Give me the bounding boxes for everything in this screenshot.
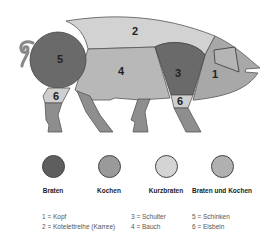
swatch-braten-und-kochen	[211, 155, 234, 178]
swatch-kurzbraten	[155, 155, 178, 178]
legend-item-braten-und-kochen: Braten und Kochen	[182, 155, 262, 194]
key-entry: 6 = Eisbein	[192, 222, 230, 232]
key-entry: 1 = Kopf	[42, 212, 115, 222]
swatch-braten	[42, 155, 65, 178]
label-4: 4	[118, 65, 125, 77]
key-column-2: 3 = Schulter 4 = Bauch	[131, 212, 166, 232]
label-3: 3	[175, 67, 181, 79]
key-entry: 4 = Bauch	[131, 222, 166, 232]
pig-cuts-diagram: 2 5 4 3 1 6 6	[0, 0, 277, 150]
label-5: 5	[57, 53, 63, 65]
key-column-3: 5 = Schinken 6 = Eisbein	[192, 212, 230, 232]
swatch-kochen	[98, 155, 121, 178]
label-6-front: 6	[177, 95, 183, 107]
key-entry: 3 = Schulter	[131, 212, 166, 222]
key-entry: 5 = Schinken	[192, 212, 230, 222]
label-6-hind: 6	[53, 90, 59, 102]
hind-leg-lower	[45, 103, 62, 132]
key-column-1: 1 = Kopf 2 = Kotelettreihe (Karree)	[42, 212, 115, 232]
cooking-legend: Braten Kochen Kurzbraten Braten und Koch…	[0, 155, 277, 200]
front-leg-back	[131, 99, 150, 132]
label-1: 1	[212, 68, 218, 80]
front-leg-lower	[174, 108, 201, 132]
label-2: 2	[132, 25, 138, 37]
key-entry: 2 = Kotelettreihe (Karree)	[42, 222, 115, 232]
legend-label: Braten und Kochen	[182, 187, 262, 194]
